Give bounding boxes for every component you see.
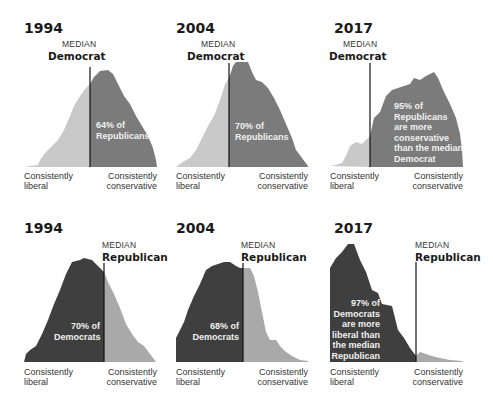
area-left-of-median: [24, 84, 90, 167]
x-axis-label-liberal: Consistentlyliberal: [330, 171, 379, 191]
annotation: 95% of Republicans are more conservative…: [394, 101, 463, 164]
annotation: 70% of Republicans: [235, 121, 289, 142]
area-right-of-median: [416, 352, 463, 362]
x-axis-label-liberal: Consistentlyliberal: [176, 171, 225, 191]
annotation: 70% of Democrats: [54, 321, 100, 342]
area-right-of-median: [90, 70, 157, 167]
panel-year-1994: 1994: [24, 220, 63, 236]
area-left-of-median: [24, 258, 104, 362]
panel-year-1994: 1994: [24, 20, 63, 36]
annotation: 68% of Democrats: [190, 321, 239, 342]
area-left-of-median: [176, 262, 243, 362]
x-axis-label-liberal: Consistentlyliberal: [176, 367, 225, 387]
x-axis-label-conservative: Consistentlyconservative: [100, 171, 157, 191]
median-party-label: Democrat: [329, 50, 387, 62]
chart-2004-median-republican: [176, 262, 308, 362]
median-caption: MEDIAN: [102, 240, 136, 250]
area-right-of-median: [104, 272, 156, 362]
x-axis-label-liberal: Consistentlyliberal: [24, 171, 73, 191]
x-axis-label-conservative: Consistentlyconservative: [100, 367, 157, 387]
median-party-label: Democrat: [187, 50, 245, 62]
chart-1994-median-democrat: [24, 67, 157, 167]
area-left-of-median: [176, 78, 229, 167]
annotation: 97% of Democrats are more liberal than t…: [330, 298, 380, 361]
annotation: 64% of Republicans: [96, 120, 150, 141]
area-left-of-median: [330, 136, 370, 167]
panel-year-2004: 2004: [176, 20, 215, 36]
panel-year-2017: 2017: [334, 220, 373, 236]
area-right-of-median: [243, 268, 308, 362]
median-party-label: Republican: [102, 251, 168, 263]
median-party-label: Republican: [415, 251, 481, 263]
x-axis-label-conservative: Consistentlyconservative: [251, 367, 308, 387]
median-caption: MEDIAN: [201, 39, 235, 49]
median-party-label: Republican: [241, 251, 307, 263]
x-axis-label-liberal: Consistentlyliberal: [330, 367, 379, 387]
area-right-of-median: [229, 62, 308, 167]
median-caption: MEDIAN: [415, 240, 449, 250]
chart-1994-median-republican: [24, 258, 156, 362]
median-caption: MEDIAN: [343, 39, 377, 49]
median-caption: MEDIAN: [241, 240, 275, 250]
x-axis-label-conservative: Consistentlyconservative: [406, 367, 463, 387]
x-axis-label-conservative: Consistentlyconservative: [406, 171, 463, 191]
median-party-label: Democrat: [48, 50, 106, 62]
panel-year-2004: 2004: [176, 220, 215, 236]
x-axis-label-liberal: Consistentlyliberal: [24, 367, 73, 387]
panel-year-2017: 2017: [334, 20, 373, 36]
chart-2004-median-democrat: [176, 62, 308, 167]
x-axis-label-conservative: Consistentlyconservative: [251, 171, 308, 191]
median-caption: MEDIAN: [62, 39, 96, 49]
